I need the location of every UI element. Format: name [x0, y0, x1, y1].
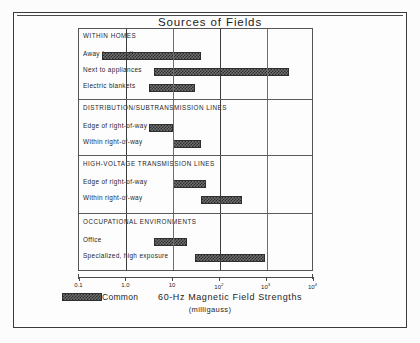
category-label: Office: [83, 236, 102, 243]
x-tick-label: 102: [214, 282, 223, 290]
group-header: DISTRIBUTION/SUBTRANSMISSION LINES: [79, 103, 312, 117]
category-rows: WITHIN HOMESAway from appliancesNext to …: [79, 29, 312, 270]
range-bar: [149, 124, 173, 132]
x-tick-label: 0.1: [74, 282, 82, 288]
category-row: Edge of right-of-way: [79, 121, 312, 135]
x-tick: [313, 277, 314, 281]
range-bar: [201, 196, 242, 204]
group-header: WITHIN HOMES: [79, 31, 312, 45]
range-bar: [154, 68, 289, 76]
group-separator: [79, 213, 312, 214]
range-bar: [173, 140, 201, 148]
group-header-label: WITHIN HOMES: [83, 32, 136, 39]
chart-title: Sources of Fields: [0, 16, 420, 28]
group-header-label: DISTRIBUTION/SUBTRANSMISSION LINES: [83, 104, 227, 111]
range-bar: [195, 254, 264, 262]
group-header-label: OCCUPATIONAL ENVIRONMENTS: [83, 218, 197, 225]
x-tick: [125, 277, 126, 281]
x-tick-label: 104: [308, 282, 317, 290]
category-row: Edge of right-of-way: [79, 177, 312, 191]
category-label: Edge of right-of-way: [83, 178, 147, 185]
x-tick: [172, 277, 173, 281]
x-axis-title-text: 60-Hz Magnetic Field Strengths: [158, 292, 302, 302]
group-separator: [79, 155, 312, 156]
x-tick: [79, 277, 80, 281]
category-row: Within right-of-way: [79, 193, 312, 207]
gridline-1000: [267, 29, 268, 270]
group-header: HIGH-VOLTAGE TRANSMISSION LINES: [79, 159, 312, 173]
range-bar: [154, 238, 187, 246]
group-separator: [79, 99, 312, 100]
category-row: Next to appliances: [79, 65, 312, 79]
category-row: Within right-of-way: [79, 137, 312, 151]
category-label: Electric blankets: [83, 82, 135, 89]
group-header-label: HIGH-VOLTAGE TRANSMISSION LINES: [83, 160, 215, 167]
x-tick-label: 103: [261, 282, 270, 290]
gridline-10: [173, 29, 174, 270]
group-header: OCCUPATIONAL ENVIRONMENTS: [79, 217, 312, 231]
category-row: Office: [79, 235, 312, 249]
plot-area: WITHIN HOMESAway from appliancesNext to …: [78, 28, 313, 271]
x-tick-label: 1.0: [121, 282, 129, 288]
x-tick-label: 10: [169, 282, 176, 288]
category-row: Specialized, high exposure: [79, 251, 312, 265]
x-tick: [219, 277, 220, 281]
gridline-100: [220, 29, 221, 270]
category-label: Within right-of-way: [83, 194, 143, 201]
range-bar: [149, 84, 196, 92]
x-axis: [78, 277, 313, 278]
category-label: Next to appliances: [83, 66, 142, 73]
x-axis-title: Common60-Hz Magnetic Field Strengths: [0, 292, 420, 302]
range-bar: [173, 180, 206, 188]
category-label: Within right-of-way: [83, 138, 143, 145]
gridline-1: [126, 29, 127, 270]
range-bar: [102, 52, 201, 60]
category-row: Electric blankets: [79, 81, 312, 95]
category-label: Edge of right-of-way: [83, 122, 147, 129]
x-axis-units: (milligauss): [0, 305, 420, 314]
x-tick: [266, 277, 267, 281]
figure-page: Sources of Fields WITHIN HOMESAway from …: [0, 0, 420, 343]
category-row: Away from appliances: [79, 49, 312, 63]
